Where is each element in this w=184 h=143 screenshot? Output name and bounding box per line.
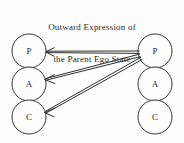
right-child-label: C <box>152 112 158 122</box>
left-adult-label: A <box>26 79 33 89</box>
transactional-analysis-figure: Outward Expression of the Parent Ego Sta… <box>0 0 184 143</box>
left-child-label: C <box>26 112 32 122</box>
left-parent-label: P <box>26 46 31 56</box>
ego-state-diagram: P A C P A C <box>0 0 184 143</box>
right-adult-label: A <box>152 79 159 89</box>
transaction-arrow-parent-to-parent <box>46 48 140 57</box>
left-column-group: P A C <box>12 34 46 134</box>
right-column-group: P A C <box>138 34 172 134</box>
right-parent-label: P <box>152 46 157 56</box>
